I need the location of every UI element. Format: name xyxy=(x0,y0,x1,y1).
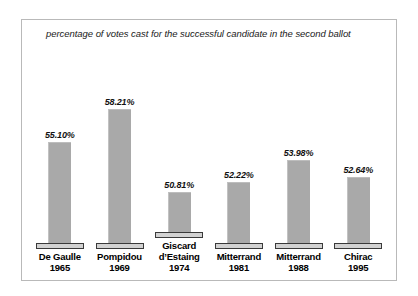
bar-column-giscard-destaing-1974[interactable]: 50.81% Giscard d’Estaing 1974 xyxy=(149,42,209,274)
bar-series: 55.10% De Gaulle 1965 58.21% Pompidou xyxy=(30,42,388,274)
category-label-line: 1969 xyxy=(97,263,142,274)
bar-rect[interactable] xyxy=(48,142,71,243)
category-label-line: 1988 xyxy=(276,263,320,274)
category-label-line: 1981 xyxy=(217,263,261,274)
bar-stack: 52.64% xyxy=(328,42,388,243)
bar-stack: 55.10% xyxy=(30,42,90,243)
bar-value-label: 58.21% xyxy=(105,98,135,107)
bar-value-label: 50.81% xyxy=(164,181,194,190)
bar-value-label: 53.98% xyxy=(284,149,314,158)
category-label-line: 1974 xyxy=(159,263,200,274)
bar-column-mitterrand-1981[interactable]: 52.22% Mitterrand 1981 xyxy=(209,42,269,274)
bar-column-chirac-1995[interactable]: 52.64% Chirac 1995 xyxy=(328,42,388,274)
bar-rect[interactable] xyxy=(227,182,250,243)
chart-frame: percentage of votes cast for the success… xyxy=(21,19,397,281)
chart-title: percentage of votes cast for the success… xyxy=(46,28,382,39)
bar-base-plate xyxy=(275,243,323,249)
bar-base-plate xyxy=(96,243,144,249)
plot-area: 55.10% De Gaulle 1965 58.21% Pompidou xyxy=(30,42,388,274)
category-label-mitterrand-1981: Mitterrand 1981 xyxy=(217,252,261,274)
bar-stack: 58.21% xyxy=(90,42,150,243)
category-label-line: 1965 xyxy=(39,263,81,274)
bar-rect[interactable] xyxy=(287,160,310,243)
bar-value-label: 52.22% xyxy=(224,171,254,180)
bar-base-plate xyxy=(334,243,382,249)
bar-stack: 52.22% xyxy=(209,42,269,243)
category-label-de-gaulle-1965: De Gaulle 1965 xyxy=(39,252,81,274)
category-label-chirac-1995: Chirac 1995 xyxy=(344,252,372,274)
bar-base-plate xyxy=(36,243,84,249)
bar-column-de-gaulle-1965[interactable]: 55.10% De Gaulle 1965 xyxy=(30,42,90,274)
bar-rect[interactable] xyxy=(108,109,131,243)
bar-stack: 53.98% xyxy=(269,42,329,243)
bar-column-pompidou-1969[interactable]: 58.21% Pompidou 1969 xyxy=(90,42,150,274)
bar-column-mitterrand-1988[interactable]: 53.98% Mitterrand 1988 xyxy=(269,42,329,274)
bar-base-plate xyxy=(155,232,203,238)
bar-value-label: 52.64% xyxy=(343,166,373,175)
bar-rect[interactable] xyxy=(168,192,191,232)
category-label-giscard-destaing-1974: Giscard d’Estaing 1974 xyxy=(159,241,200,274)
bar-rect[interactable] xyxy=(347,177,370,243)
bar-stack: 50.81% xyxy=(149,42,209,232)
category-label-line: 1995 xyxy=(344,263,372,274)
category-label-pompidou-1969: Pompidou 1969 xyxy=(97,252,142,274)
bar-base-plate xyxy=(215,243,263,249)
category-label-mitterrand-1988: Mitterrand 1988 xyxy=(276,252,320,274)
bar-value-label: 55.10% xyxy=(45,131,75,140)
